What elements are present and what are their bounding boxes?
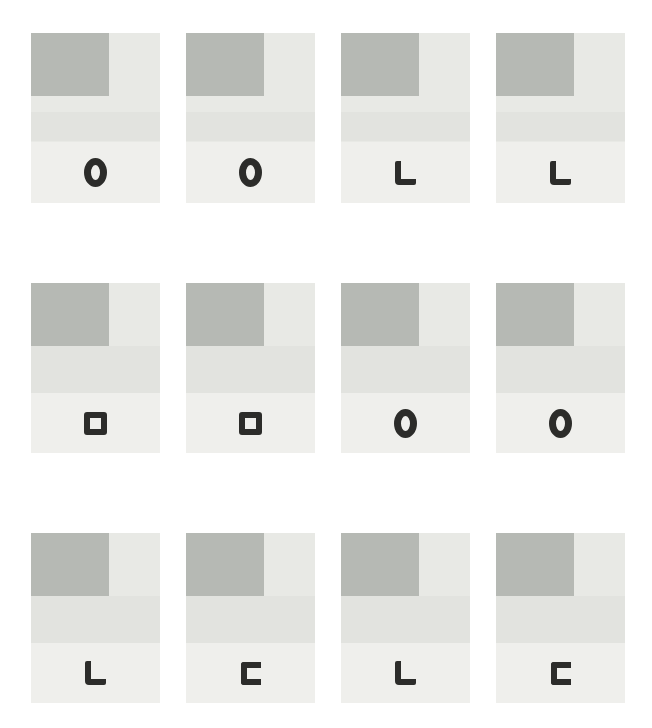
middle-band [341,346,470,393]
stimulus-card [186,533,315,703]
stimulus-card [496,33,625,203]
middle-band [341,112,470,141]
target-symbol [239,158,262,187]
target-symbol [84,158,107,187]
symbol-area [341,643,470,703]
cue-rectangle [31,533,109,596]
symbol-area [31,142,160,203]
target-symbol [550,161,571,185]
target-symbol [394,409,417,438]
middle-band [496,346,625,393]
middle-band [186,596,315,643]
target-symbol [549,409,572,438]
middle-band [496,596,625,643]
stimulus-card [31,33,160,203]
middle-band [341,596,470,643]
stimulus-card [496,533,625,703]
middle-band [31,596,160,643]
cue-rectangle [496,283,574,346]
middle-band [496,112,625,141]
cue-rectangle [496,533,574,596]
stimulus-card [341,533,470,703]
target-symbol [239,412,262,435]
cue-rectangle [31,283,109,346]
middle-band [186,112,315,141]
cue-rectangle [186,533,264,596]
target-symbol [395,161,416,185]
target-symbol [241,662,261,685]
symbol-area [496,393,625,453]
stimulus-card [186,33,315,203]
middle-band [31,112,160,141]
cue-rectangle [341,33,419,96]
symbol-area [186,643,315,703]
symbol-area [496,142,625,203]
stimulus-grid [31,33,625,703]
symbol-area [31,393,160,453]
stimulus-card [341,283,470,453]
symbol-area [186,393,315,453]
stimulus-card [31,533,160,703]
symbol-area [186,142,315,203]
scanned-figure-page: { "figure": { "description": "grid of ex… [0,0,652,728]
target-symbol [551,662,571,685]
cue-rectangle [186,283,264,346]
cue-rectangle [31,33,109,96]
symbol-area [496,643,625,703]
target-symbol [85,661,106,685]
middle-band [31,346,160,393]
symbol-area [341,142,470,203]
symbol-area [31,643,160,703]
target-symbol [395,661,416,685]
stimulus-card [496,283,625,453]
cue-rectangle [496,33,574,96]
cue-rectangle [341,533,419,596]
middle-band [186,346,315,393]
stimulus-card [186,283,315,453]
cue-rectangle [186,33,264,96]
symbol-area [341,393,470,453]
stimulus-card [341,33,470,203]
stimulus-card [31,283,160,453]
cue-rectangle [341,283,419,346]
target-symbol [84,412,107,435]
